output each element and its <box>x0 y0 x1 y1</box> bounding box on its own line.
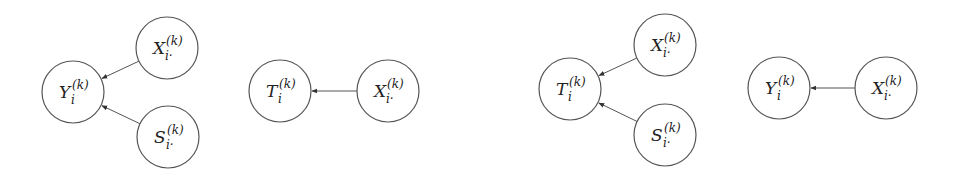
node-circle <box>42 61 104 123</box>
node-s: S(k)i· <box>634 104 696 166</box>
node-label-superscript: (k) <box>664 121 681 135</box>
node-circle <box>748 57 810 119</box>
node-label-superscript: (k) <box>778 74 795 88</box>
node-circle <box>855 57 917 119</box>
node-label-subscript: i <box>777 89 781 103</box>
node-label-superscript: (k) <box>387 77 404 91</box>
node-x: X(k)i· <box>855 57 917 119</box>
edge-x-to-t <box>599 58 637 76</box>
node-label-base: X <box>372 81 387 101</box>
node-s: S(k)i· <box>137 106 199 168</box>
node-label-superscript: (k) <box>885 74 902 88</box>
node-label-subscript: i· <box>884 89 892 103</box>
node-label-base: X <box>649 35 664 55</box>
edge-x-to-y <box>102 61 139 78</box>
node-circle <box>249 60 311 122</box>
edge-s-to-t <box>599 103 637 122</box>
node-label-subscript: i· <box>663 46 671 60</box>
node-label-superscript: (k) <box>72 78 89 92</box>
node-x: X(k)i· <box>634 14 696 76</box>
node-label-superscript: (k) <box>166 34 183 48</box>
node-x: X(k)i· <box>136 17 198 79</box>
node-label-subscript: i <box>278 92 282 106</box>
node-circle <box>539 58 601 120</box>
node-circle <box>634 104 696 166</box>
node-label-subscript: i· <box>165 49 173 63</box>
node-circle <box>136 17 198 79</box>
node-label-subscript: i· <box>166 138 174 152</box>
node-label-subscript: i <box>71 93 75 107</box>
node-label-superscript: (k) <box>569 75 586 89</box>
edge-s-to-y <box>102 106 140 124</box>
left-graph-2: T(k)iX(k)i· <box>249 60 419 122</box>
diagram-canvas: Y(k)iX(k)i·S(k)i·T(k)iX(k)i·T(k)iX(k)i·S… <box>0 0 958 182</box>
node-label-base: X <box>870 78 885 98</box>
right-graph-1: T(k)iX(k)i·S(k)i· <box>539 14 696 166</box>
node-label-subscript: i· <box>386 92 394 106</box>
node-label-base: S <box>651 125 663 145</box>
node-circle <box>137 106 199 168</box>
node-t: T(k)i <box>249 60 311 122</box>
node-label-superscript: (k) <box>167 123 184 137</box>
right-graph-2: Y(k)iX(k)i· <box>748 57 917 119</box>
node-label-subscript: i· <box>663 136 671 150</box>
node-y: Y(k)i <box>42 61 104 123</box>
node-label-superscript: (k) <box>279 77 296 91</box>
node-label-base: X <box>151 38 166 58</box>
node-label-base: S <box>154 127 166 147</box>
node-label-subscript: i <box>568 90 572 104</box>
node-circle <box>357 60 419 122</box>
node-y: Y(k)i <box>748 57 810 119</box>
node-label-superscript: (k) <box>664 31 681 45</box>
node-circle <box>634 14 696 76</box>
node-t: T(k)i <box>539 58 601 120</box>
left-graph-1: Y(k)iX(k)i·S(k)i· <box>42 17 199 168</box>
node-x: X(k)i· <box>357 60 419 122</box>
